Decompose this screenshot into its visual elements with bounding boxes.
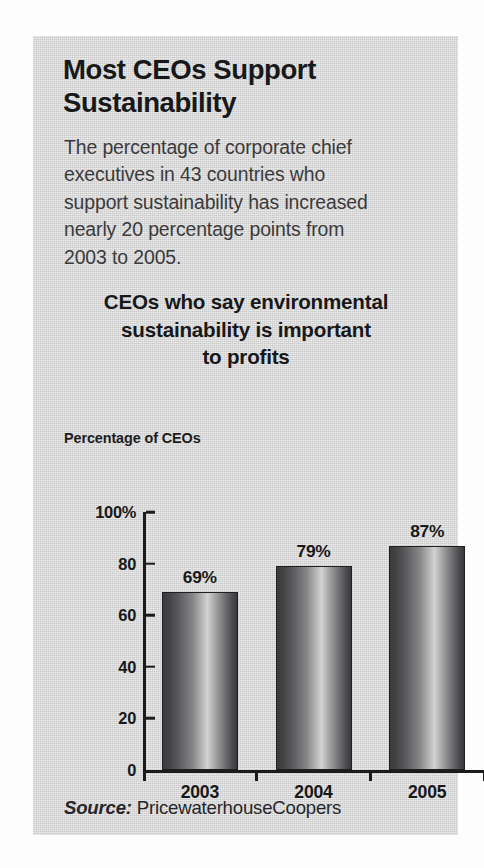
chart-title: CEOs who say environmental sustainabilit…: [51, 288, 441, 371]
chart-title-line-1: CEOs who say environmental: [51, 288, 441, 316]
chart-title-line-3: to profits: [51, 343, 441, 371]
deck-paragraph: The percentage of corporate chief execut…: [64, 134, 432, 271]
x-tick-mark: [143, 773, 146, 781]
y-tick-label: 60: [66, 606, 136, 625]
headline-line-2: Sustainability: [63, 86, 423, 119]
deck-line-2: executives in 43 countries who: [64, 161, 432, 188]
y-tick-mark: [146, 511, 155, 514]
x-tick-mark: [369, 773, 372, 781]
y-axis-caption: Percentage of CEOs: [64, 430, 201, 446]
x-axis-line: [143, 770, 484, 773]
y-axis-line: [143, 512, 146, 773]
bar: [162, 592, 238, 770]
headline-line-1: Most CEOs Support: [63, 54, 316, 85]
bar-chart-plot: 100%806040200 69%79%87% 200320042005: [64, 466, 440, 786]
deck-line-3: support sustainability has increased: [64, 189, 432, 216]
y-tick-mark: [146, 717, 155, 720]
deck-line-1: The percentage of corporate chief: [64, 134, 432, 161]
headline: Most CEOs Support Sustainability: [63, 53, 423, 119]
bar-value-label: 87%: [372, 521, 482, 542]
bar-value-label: 79%: [259, 541, 369, 562]
bar: [276, 566, 352, 770]
deck-line-4: nearly 20 percentage points from: [64, 216, 432, 243]
y-tick-label: 100%: [66, 503, 136, 522]
source-label: Source:: [64, 797, 132, 818]
bar: [389, 546, 465, 770]
source-text: PricewaterhouseCoopers: [132, 797, 341, 818]
source-line: Source: PricewaterhouseCoopers: [64, 797, 341, 819]
x-category-label: 2005: [372, 782, 482, 803]
chart-title-line-2: sustainability is important: [51, 316, 441, 344]
y-tick-mark: [146, 614, 155, 617]
infographic-card: Most CEOs Support Sustainability The per…: [0, 0, 484, 868]
y-tick-label: 20: [66, 709, 136, 728]
y-tick-label: 0: [66, 761, 136, 780]
x-tick-mark: [255, 773, 258, 781]
bar-value-label: 69%: [145, 567, 255, 588]
y-tick-mark: [146, 666, 155, 669]
y-tick-label: 80: [66, 554, 136, 573]
card-background: Most CEOs Support Sustainability The per…: [33, 36, 458, 835]
y-tick-mark: [146, 562, 155, 565]
deck-line-5: 2003 to 2005.: [64, 244, 432, 271]
y-tick-label: 40: [66, 657, 136, 676]
